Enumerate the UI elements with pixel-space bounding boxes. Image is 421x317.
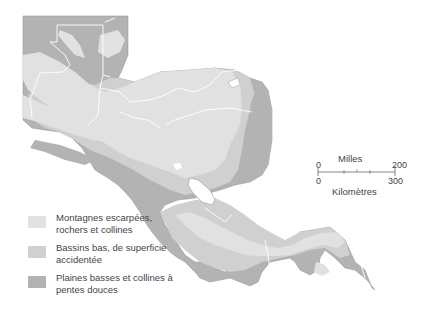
scale-km-end: 300 [388,176,403,186]
legend-item-low-basins: Bassins bas, de superficie accidentée [28,242,186,265]
scale-km-label: Kilomètres [332,186,377,197]
legend-swatch-steep-mountains [28,216,46,228]
legend-item-steep-mountains: Montagnes escarpées, rochers et collines [28,212,186,235]
legend-label: Bassins bas, de superficie accidentée [56,242,186,265]
legend-swatch-plains [28,276,46,288]
legend-label: Plaines basses et collines à pentes douc… [56,272,186,295]
scale-km-start: 0 [316,176,321,186]
legend-swatch-low-basins [28,246,46,258]
legend-label: Montagnes escarpées, rochers et collines [56,212,186,235]
scale-bar: Milles 0 200 0 300 Kilomètres [308,153,408,203]
map-legend: Montagnes escarpées, rochers et collines… [28,212,186,302]
legend-item-plains: Plaines basses et collines à pentes douc… [28,272,186,295]
